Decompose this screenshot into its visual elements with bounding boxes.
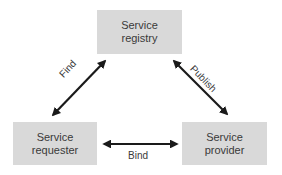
bind-label: Bind	[128, 150, 148, 161]
arrows-layer	[0, 0, 282, 175]
